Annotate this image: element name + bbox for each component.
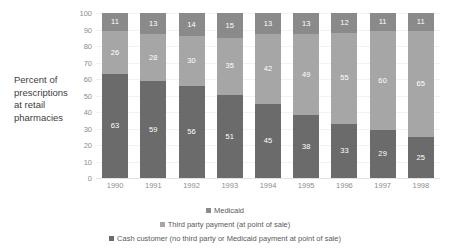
bar-value-label: 33 bbox=[340, 147, 349, 155]
bar-value-label: 15 bbox=[225, 22, 234, 30]
bar-segment-cash-customer-1997[interactable]: 29 bbox=[370, 130, 396, 178]
bar-segment-medicaid-1995[interactable]: 13 bbox=[293, 13, 319, 34]
bar-segment-third-party-payment-1996[interactable]: 55 bbox=[331, 33, 357, 124]
bar-value-label: 14 bbox=[187, 21, 196, 29]
bar-segment-medicaid-1992[interactable]: 14 bbox=[179, 13, 205, 36]
bar-segment-cash-customer-1990[interactable]: 63 bbox=[102, 74, 128, 178]
bar-value-label: 28 bbox=[149, 54, 158, 62]
bar-segment-cash-customer-1994[interactable]: 45 bbox=[255, 104, 281, 178]
x-tick-label-1991: 1991 bbox=[140, 181, 166, 195]
bar-segment-third-party-payment-1990[interactable]: 26 bbox=[102, 31, 128, 74]
y-axis-title-line-2: prescriptions bbox=[14, 87, 84, 100]
bar-column-1998[interactable]: 116525 bbox=[408, 13, 434, 178]
bar-value-label: 56 bbox=[187, 128, 196, 136]
bar-column-1995[interactable]: 134938 bbox=[293, 13, 319, 178]
bar-segment-medicaid-1994[interactable]: 13 bbox=[255, 13, 281, 34]
bar-column-1997[interactable]: 116029 bbox=[370, 13, 396, 178]
legend-item[interactable]: Medicaid bbox=[206, 206, 244, 215]
bar-value-label: 11 bbox=[111, 18, 119, 26]
stacked-bar-chart: Percent of prescriptions at retail pharm… bbox=[0, 0, 450, 252]
x-axis-tick-labels: 199019911992199319941995199619971998 bbox=[96, 181, 440, 195]
legend-item[interactable]: Cash customer (no third party or Medicai… bbox=[109, 234, 341, 243]
y-axis-title-line-3: at retail bbox=[14, 99, 84, 112]
bar-segment-cash-customer-1991[interactable]: 59 bbox=[140, 81, 166, 178]
bar-segment-third-party-payment-1992[interactable]: 30 bbox=[179, 36, 205, 86]
x-tick-label-1997: 1997 bbox=[370, 181, 396, 195]
bar-value-label: 42 bbox=[264, 65, 273, 73]
bar-segment-medicaid-1991[interactable]: 13 bbox=[140, 13, 166, 34]
legend-row-0[interactable]: Medicaid bbox=[0, 203, 450, 217]
y-tick-label-0: 0 bbox=[88, 174, 92, 183]
bar-segment-third-party-payment-1993[interactable]: 35 bbox=[217, 38, 243, 95]
legend-swatch-icon bbox=[109, 236, 114, 241]
bar-segment-cash-customer-1992[interactable]: 56 bbox=[179, 86, 205, 178]
bar-value-label: 13 bbox=[264, 20, 273, 28]
bar-value-label: 26 bbox=[111, 49, 120, 57]
plot-area: 0102030405060708090100 11266313285914305… bbox=[96, 13, 440, 178]
x-tick-label-1990: 1990 bbox=[102, 181, 128, 195]
y-tick-label-90: 90 bbox=[84, 25, 92, 34]
legend-label: Cash customer (no third party or Medicai… bbox=[117, 234, 341, 243]
bar-column-1993[interactable]: 153551 bbox=[217, 13, 243, 178]
bar-value-label: 13 bbox=[149, 20, 158, 28]
x-tick-label-1998: 1998 bbox=[408, 181, 434, 195]
bar-segment-third-party-payment-1998[interactable]: 65 bbox=[408, 31, 434, 137]
bar-value-label: 45 bbox=[264, 137, 273, 145]
y-axis-title-line-1: Percent of bbox=[14, 74, 84, 87]
bar-value-label: 11 bbox=[417, 18, 425, 26]
y-tick-label-40: 40 bbox=[84, 108, 92, 117]
bar-segment-medicaid-1996[interactable]: 12 bbox=[331, 13, 357, 33]
x-tick-label-1993: 1993 bbox=[217, 181, 243, 195]
bar-value-label: 30 bbox=[187, 57, 196, 65]
y-tick-label-100: 100 bbox=[79, 9, 92, 18]
y-tick-label-80: 80 bbox=[84, 42, 92, 51]
bar-segment-medicaid-1998[interactable]: 11 bbox=[408, 13, 434, 31]
bar-value-label: 38 bbox=[302, 143, 311, 151]
bar-segment-third-party-payment-1995[interactable]: 49 bbox=[293, 34, 319, 115]
bar-value-label: 55 bbox=[340, 74, 349, 82]
bar-column-1990[interactable]: 112663 bbox=[102, 13, 128, 178]
y-tick-label-70: 70 bbox=[84, 58, 92, 67]
y-axis-title: Percent of prescriptions at retail pharm… bbox=[14, 74, 84, 124]
legend-row-1[interactable]: Third party payment (at point of sale) bbox=[0, 217, 450, 231]
bar-value-label: 13 bbox=[302, 20, 311, 28]
bar-value-label: 63 bbox=[111, 122, 120, 130]
bar-value-label: 51 bbox=[225, 133, 234, 141]
legend-swatch-icon bbox=[206, 208, 211, 213]
y-tick-label-60: 60 bbox=[84, 75, 92, 84]
bar-column-1991[interactable]: 132859 bbox=[140, 13, 166, 178]
bar-segment-medicaid-1990[interactable]: 11 bbox=[102, 13, 128, 31]
bar-column-1992[interactable]: 143056 bbox=[179, 13, 205, 178]
bar-value-label: 25 bbox=[417, 154, 426, 162]
bar-segment-cash-customer-1996[interactable]: 33 bbox=[331, 124, 357, 178]
legend-swatch-icon bbox=[160, 222, 165, 227]
legend-label: Third party payment (at point of sale) bbox=[168, 220, 291, 229]
legend-row-2[interactable]: Cash customer (no third party or Medicai… bbox=[0, 231, 450, 245]
y-tick-label-50: 50 bbox=[84, 91, 92, 100]
bar-segment-cash-customer-1993[interactable]: 51 bbox=[217, 95, 243, 178]
bar-value-label: 60 bbox=[378, 77, 387, 85]
bar-segment-medicaid-1993[interactable]: 15 bbox=[217, 13, 243, 38]
legend-label: Medicaid bbox=[214, 206, 244, 215]
x-tick-label-1994: 1994 bbox=[255, 181, 281, 195]
x-tick-label-1996: 1996 bbox=[331, 181, 357, 195]
bar-value-label: 29 bbox=[378, 150, 387, 158]
bar-value-label: 59 bbox=[149, 126, 158, 134]
bar-value-label: 35 bbox=[225, 62, 234, 70]
bar-column-1994[interactable]: 134245 bbox=[255, 13, 281, 178]
bar-value-label: 12 bbox=[340, 19, 349, 27]
bar-segment-cash-customer-1995[interactable]: 38 bbox=[293, 115, 319, 178]
bar-segment-third-party-payment-1994[interactable]: 42 bbox=[255, 34, 281, 103]
gridline-0 bbox=[96, 178, 440, 179]
legend-item[interactable]: Third party payment (at point of sale) bbox=[160, 220, 291, 229]
bar-value-label: 49 bbox=[302, 71, 311, 79]
bar-segment-cash-customer-1998[interactable]: 25 bbox=[408, 137, 434, 178]
bar-segment-third-party-payment-1991[interactable]: 28 bbox=[140, 34, 166, 80]
bar-segment-medicaid-1997[interactable]: 11 bbox=[370, 13, 396, 31]
bar-column-1996[interactable]: 125533 bbox=[331, 13, 357, 178]
bar-segment-third-party-payment-1997[interactable]: 60 bbox=[370, 31, 396, 130]
x-tick-label-1992: 1992 bbox=[179, 181, 205, 195]
y-tick-label-20: 20 bbox=[84, 141, 92, 150]
bar-series-group: 1126631328591430561535511342451349381255… bbox=[96, 13, 440, 178]
y-tick-label-10: 10 bbox=[84, 157, 92, 166]
